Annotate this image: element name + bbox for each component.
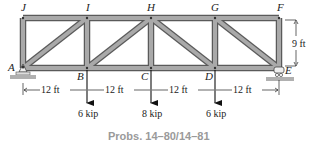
joint-label-D: D [204,70,213,82]
joint-label-G: G [211,1,219,13]
figure-caption: Probs. 14–80/14–81 [108,130,210,142]
load-label-D: 6 kip [206,108,226,119]
span-label-DE: 12 ft [233,84,252,95]
load-label-B: 6 kip [78,108,98,119]
joint-label-A: A [7,61,15,73]
joint-label-J: J [21,1,27,13]
joint-label-F: F [276,1,284,13]
joint-label-C: C [141,70,149,82]
joint-label-I: I [85,1,91,13]
load-label-C: 8 kip [142,108,162,119]
height-dimension-label: 9 ft [292,38,306,49]
joint-label-H: H [146,1,156,13]
span-label-BC: 12 ft [105,84,124,95]
span-label-CD: 12 ft [169,84,188,95]
joint-label-B: B [77,70,84,82]
truss-diagram: J I H G F A B C D E 9 ft 12 ft 12 ft 12 … [0,0,315,148]
span-label-AB: 12 ft [41,84,60,95]
